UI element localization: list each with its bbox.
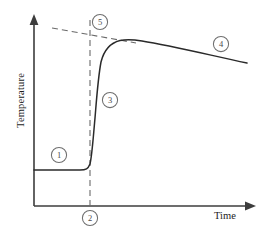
annotation-marker-5: 5 [92,14,107,29]
baseline-extrapolation-dashed-line [52,28,136,43]
annotation-marker-4: 4 [213,36,228,51]
temperature-response-curve [34,40,247,170]
annotation-marker-2: 2 [82,210,97,225]
marker-2-label: 2 [88,213,92,223]
annotation-marker-1: 1 [51,147,66,162]
y-axis-arrowhead [30,14,39,25]
marker-1-label: 1 [57,150,61,160]
marker-3-label: 3 [108,95,112,105]
annotation-marker-3: 3 [102,92,117,107]
x-axis-label: Time [214,210,236,221]
chart-canvas: 1 2 3 4 5 Temperature Time [0,0,272,237]
x-axis-arrowhead [245,202,256,211]
temperature-time-chart: 1 2 3 4 5 Temperature Time [0,0,272,237]
marker-5-label: 5 [98,17,102,27]
y-axis-label: Temperature [15,73,26,128]
